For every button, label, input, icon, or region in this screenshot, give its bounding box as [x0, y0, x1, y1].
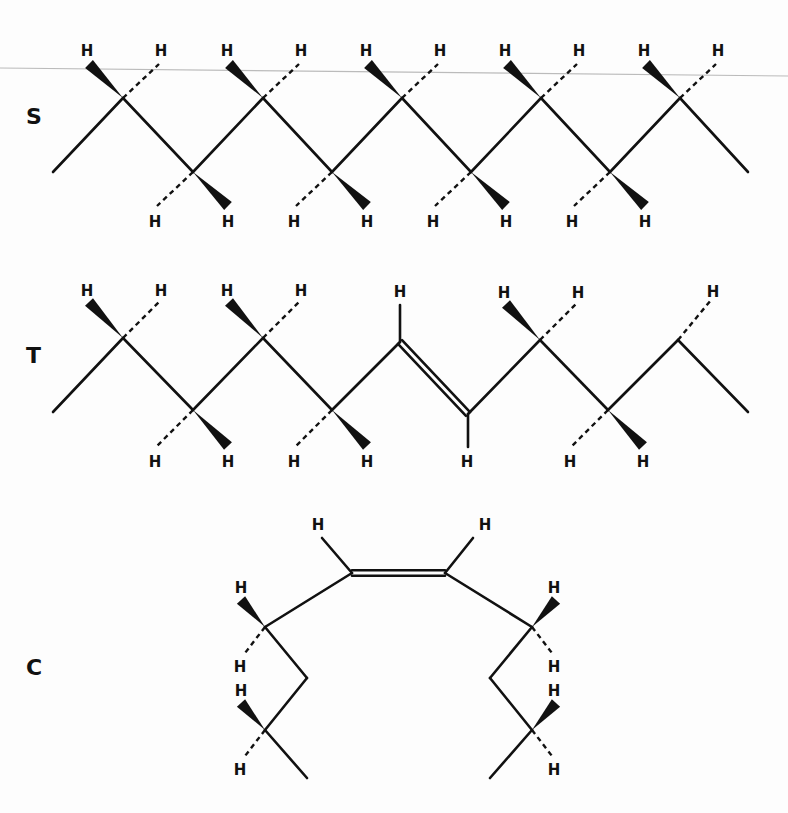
hydrogen-label: H — [288, 453, 301, 471]
dashed-bond — [572, 410, 608, 446]
hydrogen-label: H — [361, 453, 374, 471]
dashed-bond — [245, 730, 265, 756]
structure-t: HHHHHHHHHHHHHHH — [53, 282, 748, 471]
single-bond — [610, 98, 680, 172]
hydrogen-label: H — [155, 42, 168, 60]
single-bond — [680, 98, 748, 172]
hydrogen-label: H — [394, 283, 407, 301]
dashed-bond — [541, 64, 577, 98]
hydrogen-label: H — [564, 453, 577, 471]
molecule-figure: S T C HHHHHHHHHHHHHHHHHH HHHHHHHHHHHHHHH… — [0, 0, 788, 813]
hydrogen-label: H — [572, 284, 585, 302]
single-bond — [678, 340, 748, 412]
structure-s: HHHHHHHHHHHHHHHHHH — [53, 42, 748, 231]
hydrogen-label: H — [234, 658, 247, 676]
single-bond — [193, 338, 263, 410]
scan-rule-line — [0, 68, 788, 76]
wedge-bond — [225, 298, 263, 338]
hydrogen-label: H — [566, 213, 579, 231]
dashed-bond — [245, 627, 265, 653]
dashed-bond — [540, 304, 576, 340]
structure-c: HHHHHHHHHH — [234, 516, 561, 779]
dashed-bond — [263, 64, 299, 98]
wedge-bond — [237, 596, 265, 627]
hydrogen-label: H — [638, 42, 651, 60]
wedge-bond — [225, 60, 263, 98]
dashed-bond — [532, 730, 552, 756]
structure-diagram: S T C HHHHHHHHHHHHHHHHHH HHHHHHHHHHHHHHH… — [0, 0, 788, 813]
hydrogen-label: H — [548, 658, 561, 676]
structure-label-t: T — [26, 343, 41, 368]
dashed-bond — [296, 410, 332, 446]
hydrogen-label: H — [81, 42, 94, 60]
wedge-bond — [471, 172, 510, 210]
hydrogen-label: H — [155, 282, 168, 300]
single-bond — [265, 573, 352, 627]
hydrogen-label: H — [461, 453, 474, 471]
dashed-bond — [574, 172, 610, 206]
hydrogen-label: H — [149, 213, 162, 231]
single-bond — [263, 338, 332, 410]
wedge-bond — [364, 60, 402, 98]
single-bond — [123, 98, 193, 172]
single-bond — [541, 98, 610, 172]
hydrogen-label: H — [427, 213, 440, 231]
hydrogen-label: H — [637, 453, 650, 471]
wedge-bond — [193, 172, 232, 210]
single-bond — [265, 627, 307, 678]
single-bond — [490, 627, 532, 678]
hydrogen-label: H — [81, 282, 94, 300]
hydrogen-label: H — [499, 42, 512, 60]
structure-label-c: C — [26, 655, 42, 680]
single-bond — [193, 98, 263, 172]
hydrogen-label: H — [361, 213, 374, 231]
single-bond — [265, 678, 307, 730]
hydrogen-label: H — [573, 42, 586, 60]
single-bond — [490, 730, 532, 778]
dashed-bond — [532, 627, 552, 653]
wedge-bond — [85, 60, 123, 98]
wedge-bond — [332, 410, 371, 450]
hydrogen-label: H — [221, 42, 234, 60]
dashed-bond — [157, 172, 193, 206]
single-bond — [265, 730, 307, 778]
single-bond — [332, 98, 402, 172]
hydrogen-label: H — [288, 213, 301, 231]
wedge-bond — [503, 60, 541, 98]
hydrogen-label: H — [548, 761, 561, 779]
hydrogen-label: H — [548, 579, 561, 597]
wedge-bond — [532, 699, 560, 730]
single-bond — [53, 338, 123, 412]
hydrogen-label: H — [434, 42, 447, 60]
single-bond — [332, 342, 400, 410]
wedge-bond — [608, 410, 647, 450]
double-bond-line — [398, 344, 466, 416]
hydrogen-label: H — [548, 682, 561, 700]
wedge-bond — [85, 298, 123, 338]
dashed-bond — [296, 172, 332, 206]
wedge-bond — [237, 699, 265, 730]
wedge-bond — [332, 172, 371, 210]
hydrogen-label: H — [707, 283, 720, 301]
single-bond — [53, 98, 123, 172]
wedge-bond — [532, 596, 560, 627]
single-bond — [123, 338, 193, 410]
single-bond — [540, 340, 608, 410]
structure-label-s: S — [26, 104, 42, 129]
hydrogen-label: H — [500, 213, 513, 231]
single-bond — [402, 98, 471, 172]
single-bond — [445, 538, 473, 573]
hydrogen-label: H — [234, 761, 247, 779]
hydrogen-label: H — [222, 453, 235, 471]
dashed-bond — [678, 300, 711, 340]
hydrogen-label: H — [235, 579, 248, 597]
single-bond — [445, 573, 532, 627]
single-bond — [471, 98, 541, 172]
hydrogen-label: H — [295, 42, 308, 60]
wedge-bond — [610, 172, 649, 210]
hydrogen-label: H — [312, 516, 325, 534]
wedge-bond — [502, 300, 540, 340]
dashed-bond — [263, 302, 299, 338]
single-bond — [322, 538, 352, 573]
hydrogen-label: H — [235, 682, 248, 700]
